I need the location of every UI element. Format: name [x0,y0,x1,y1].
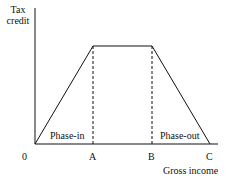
y-axis-label-line1: Tax [4,4,32,15]
tick-label-c: C [206,151,213,162]
tick-label-b: B [148,151,155,162]
tick-label-origin: 0 [22,151,27,162]
diagram-canvas [0,0,228,183]
y-axis-label-line2: credit [4,15,32,26]
tax-credit-diagram: Tax credit 0 A B C Gross income Phase-in… [0,0,228,183]
phase-in-label: Phase-in [50,130,84,141]
x-axis-label: Gross income [163,165,218,176]
tick-label-a: A [89,151,96,162]
phase-out-label: Phase-out [160,130,199,141]
y-axis-label: Tax credit [4,4,32,26]
